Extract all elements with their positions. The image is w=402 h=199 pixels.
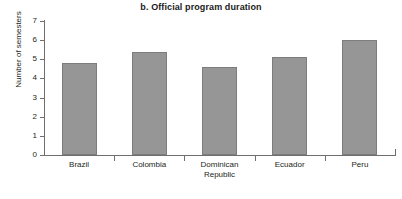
y-axis-tick: 7: [0, 21, 44, 22]
x-axis-category-label-line: Brazil: [69, 160, 89, 169]
y-axis-tick: 0: [0, 155, 44, 156]
y-tick-label: 6: [33, 34, 37, 45]
x-axis-category-label: Peru: [325, 160, 395, 170]
x-axis-category-label-line: Ecuador: [275, 160, 305, 169]
chart-figure: b. Official program duration Number of s…: [0, 0, 402, 199]
x-axis-category-label-line: Colombia: [132, 160, 166, 169]
x-axis-category-label-line: Peru: [351, 160, 368, 169]
y-axis-tick: 6: [0, 40, 44, 41]
y-axis-tick: 5: [0, 59, 44, 60]
y-tick-mark: [40, 59, 44, 60]
x-axis-category-label-line: Republic: [184, 170, 254, 180]
y-tick-mark: [40, 78, 44, 79]
y-tick-label: 7: [33, 15, 37, 26]
y-axis-tick: 1: [0, 136, 44, 137]
x-axis-category-label: Brazil: [44, 160, 114, 170]
y-axis-tick: 4: [0, 78, 44, 79]
x-axis-end-tick: [395, 149, 396, 156]
y-tick-label: 0: [33, 149, 37, 160]
bar: [342, 40, 377, 155]
y-tick-label: 5: [33, 53, 37, 64]
x-axis-line: [44, 155, 396, 156]
y-tick-mark: [40, 21, 44, 22]
y-tick-label: 4: [33, 72, 37, 83]
plot-area: 01234567: [44, 21, 395, 155]
bar: [272, 57, 307, 155]
y-tick-mark: [40, 40, 44, 41]
y-axis-tick: 3: [0, 98, 44, 99]
bar: [62, 63, 97, 155]
x-axis-category-label-line: Dominican: [201, 160, 239, 169]
chart-title: b. Official program duration: [0, 2, 402, 12]
y-axis-tick: 2: [0, 117, 44, 118]
y-tick-mark: [40, 98, 44, 99]
y-tick-label: 2: [33, 111, 37, 122]
y-tick-label: 3: [33, 92, 37, 103]
x-axis-category-label: Colombia: [114, 160, 184, 170]
bar: [202, 67, 237, 155]
y-tick-mark: [40, 155, 44, 156]
x-axis-category-label: DominicanRepublic: [184, 160, 254, 180]
bar: [132, 52, 167, 155]
y-tick-mark: [40, 136, 44, 137]
y-tick-mark: [40, 117, 44, 118]
x-axis-category-label: Ecuador: [255, 160, 325, 170]
y-tick-label: 1: [33, 130, 37, 141]
